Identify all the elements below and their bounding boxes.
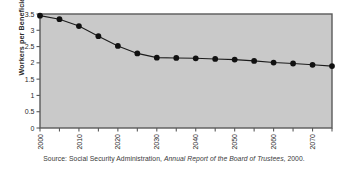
data-point-marker (212, 56, 218, 62)
x-tick-label: 2070 (309, 134, 316, 150)
x-tick-label: 2000 (37, 134, 44, 150)
y-tick-label: 0 (31, 125, 35, 132)
x-tick-label: 2050 (231, 134, 238, 150)
y-tick-label: 0.5 (25, 108, 35, 115)
x-tick-label: 2030 (153, 134, 160, 150)
plot-area (40, 14, 332, 128)
data-point-marker (271, 60, 277, 66)
x-tick-label: 2010 (76, 134, 83, 150)
x-axis-tick-labels: 20002010202020302040205020602070 (37, 134, 317, 150)
data-point-marker (310, 62, 316, 68)
x-tick-label: 2040 (192, 134, 199, 150)
y-tick-label: 1.5 (25, 76, 35, 83)
y-tick-label: 3 (31, 27, 35, 34)
workers-per-beneficiary-line-chart: 00.511.522.533.5 20002010202020302040205… (0, 0, 348, 176)
data-point-marker (96, 33, 102, 39)
chart-figure: 00.511.522.533.5 20002010202020302040205… (0, 0, 348, 176)
data-point-marker (154, 55, 160, 61)
y-tick-label: 2.5 (25, 43, 35, 50)
data-point-marker (251, 58, 257, 64)
data-point-marker (232, 57, 238, 63)
x-tick-label: 2020 (114, 134, 121, 150)
source-publication: Annual Report of the Board of Trustees (164, 155, 284, 162)
plot-background (40, 14, 332, 128)
data-point-marker (76, 23, 82, 29)
data-point-marker (115, 43, 121, 49)
data-point-marker (329, 63, 335, 69)
y-tick-label: 1 (31, 92, 35, 99)
source-suffix: , 2000. (284, 155, 305, 162)
data-point-marker (173, 55, 179, 61)
data-point-marker (37, 13, 43, 19)
source-caption: Source: Social Security Administration, … (0, 155, 348, 162)
y-axis-tick-labels: 00.511.522.533.5 (25, 11, 35, 132)
data-point-marker (134, 51, 140, 57)
data-point-marker (193, 55, 199, 61)
data-point-marker (290, 61, 296, 67)
x-tick-label: 2060 (270, 134, 277, 150)
y-tick-label: 3.5 (25, 11, 35, 18)
y-tick-label: 2 (31, 59, 35, 66)
source-prefix: Source: Social Security Administration, (43, 155, 162, 162)
y-axis-title: Workers per Beneficiary (10, 0, 24, 88)
y-axis-title-text: Workers per Beneficiary (17, 0, 26, 75)
data-point-marker (57, 16, 63, 22)
